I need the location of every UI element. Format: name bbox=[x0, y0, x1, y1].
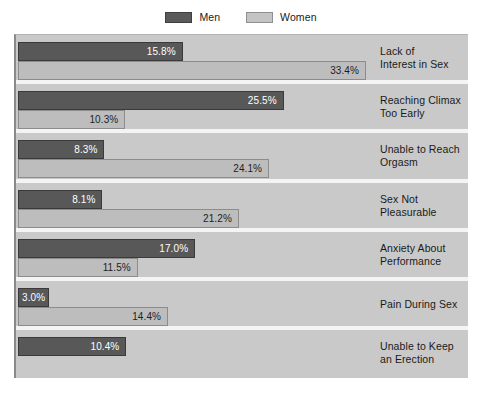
bar-group: 17.0%11.5%Anxiety AboutPerformance bbox=[16, 232, 468, 281]
category-label-line: Lack of bbox=[380, 45, 468, 58]
bar-value-label: 33.4% bbox=[330, 65, 365, 76]
legend-entry-women: Women bbox=[246, 11, 317, 23]
bar-men[interactable]: 8.3% bbox=[18, 140, 104, 159]
category-label-line: Anxiety About bbox=[380, 242, 468, 255]
bar-chart: Men Women 15.8%33.4%Lack ofInterest in S… bbox=[0, 0, 482, 396]
bar-group-list: 15.8%33.4%Lack ofInterest in Sex25.5%10.… bbox=[16, 35, 468, 378]
bar-women[interactable]: 33.4% bbox=[18, 61, 366, 80]
bar-women[interactable]: 24.1% bbox=[18, 159, 269, 178]
bar-group: 10.4%Unable to Keepan Erection bbox=[16, 330, 468, 378]
bar-value-label: 21.2% bbox=[203, 213, 238, 224]
bar-value-label: 24.1% bbox=[233, 163, 268, 174]
bar-men[interactable]: 17.0% bbox=[18, 239, 195, 258]
category-label: Reaching ClimaxToo Early bbox=[380, 94, 468, 120]
bar-value-label: 17.0% bbox=[159, 243, 194, 254]
category-label: Anxiety AboutPerformance bbox=[380, 242, 468, 268]
bar-women[interactable]: 10.3% bbox=[18, 110, 125, 129]
bar-value-label: 25.5% bbox=[248, 95, 283, 106]
bar-group: 25.5%10.3%Reaching ClimaxToo Early bbox=[16, 84, 468, 133]
category-label: Unable to Keepan Erection bbox=[380, 340, 468, 366]
category-label: Unable to ReachOrgasm bbox=[380, 143, 468, 169]
bar-men[interactable]: 8.1% bbox=[18, 190, 102, 209]
bar-group: 15.8%33.4%Lack ofInterest in Sex bbox=[16, 35, 468, 84]
category-label-line: Orgasm bbox=[380, 156, 468, 169]
category-label-line: Unable to Reach bbox=[380, 143, 468, 156]
category-label-line: Pain During Sex bbox=[380, 298, 468, 311]
bar-value-label: 10.3% bbox=[89, 114, 124, 125]
bar-value-label: 3.0% bbox=[19, 292, 45, 303]
bar-women[interactable]: 21.2% bbox=[18, 209, 239, 228]
category-label-line: Interest in Sex bbox=[380, 58, 468, 71]
bar-women[interactable]: 14.4% bbox=[18, 307, 168, 326]
bar-men[interactable]: 10.4% bbox=[18, 337, 126, 356]
category-label-line: Sex Not bbox=[380, 193, 468, 206]
category-label-line: an Erection bbox=[380, 353, 468, 366]
chart-legend: Men Women bbox=[0, 11, 482, 23]
bar-men[interactable]: 15.8% bbox=[18, 42, 183, 61]
legend-swatch-men-icon bbox=[165, 12, 192, 23]
bar-value-label: 8.1% bbox=[72, 194, 101, 205]
legend-label-women: Women bbox=[280, 11, 317, 23]
legend-swatch-women-icon bbox=[246, 12, 273, 23]
category-label: Pain During Sex bbox=[380, 298, 468, 311]
bar-men[interactable]: 25.5% bbox=[18, 91, 284, 110]
legend-entry-men: Men bbox=[165, 11, 220, 23]
category-label-line: Too Early bbox=[380, 107, 468, 120]
category-label-line: Performance bbox=[380, 255, 468, 268]
bar-value-label: 15.8% bbox=[147, 46, 182, 57]
bar-women[interactable]: 11.5% bbox=[18, 258, 138, 277]
category-label: Lack ofInterest in Sex bbox=[380, 45, 468, 71]
category-label-line: Reaching Climax bbox=[380, 94, 468, 107]
bar-group: 8.3%24.1%Unable to ReachOrgasm bbox=[16, 133, 468, 182]
category-label: Sex NotPleasurable bbox=[380, 193, 468, 219]
bar-value-label: 8.3% bbox=[74, 144, 103, 155]
category-label-line: Pleasurable bbox=[380, 206, 468, 219]
plot-area: 15.8%33.4%Lack ofInterest in Sex25.5%10.… bbox=[14, 34, 468, 378]
bar-value-label: 10.4% bbox=[91, 341, 126, 352]
bar-group: 8.1%21.2%Sex NotPleasurable bbox=[16, 183, 468, 232]
bar-value-label: 11.5% bbox=[103, 262, 137, 273]
bar-men[interactable]: 3.0% bbox=[18, 288, 49, 307]
bar-group: 3.0%14.4%Pain During Sex bbox=[16, 281, 468, 330]
legend-label-men: Men bbox=[199, 11, 220, 23]
bar-value-label: 14.4% bbox=[132, 311, 167, 322]
category-label-line: Unable to Keep bbox=[380, 340, 468, 353]
